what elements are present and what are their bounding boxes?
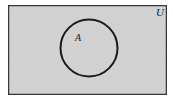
universal-set-label: U: [156, 6, 165, 18]
venn-diagram-figure: U A: [0, 0, 174, 101]
venn-diagram-canvas: U A: [0, 0, 174, 101]
set-a-label: A: [74, 32, 82, 43]
